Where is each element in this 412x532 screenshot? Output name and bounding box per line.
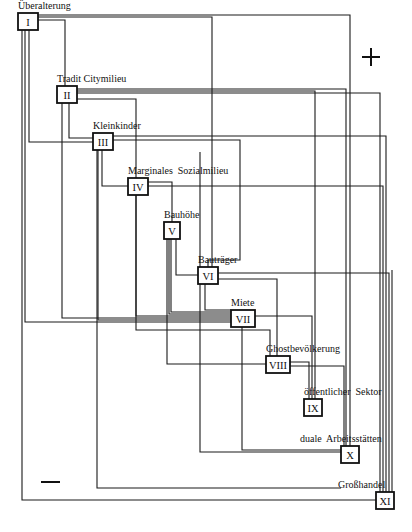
plus-sign-icon bbox=[362, 48, 380, 66]
node-id: II bbox=[64, 90, 71, 101]
node-label: Tradit Citymilieu bbox=[57, 73, 126, 84]
node-label: Großhandel bbox=[338, 479, 385, 490]
node-id: VIII bbox=[269, 360, 288, 371]
node-layer: ÜberalterungITradit CitymilieuIIKleinkin… bbox=[18, 0, 394, 509]
node-label: Überalterung bbox=[18, 0, 71, 11]
node-id: V bbox=[168, 226, 176, 237]
node-ix: öffentlicher SektorIX bbox=[304, 386, 382, 416]
node-label: Bauträger bbox=[198, 254, 238, 265]
node-label: Bauhöhe bbox=[164, 209, 200, 220]
influence-network-diagram: ÜberalterungITradit CitymilieuIIKleinkin… bbox=[0, 0, 412, 532]
node-x: duale ArbeitsstättenX bbox=[300, 433, 382, 463]
edge-ii-to-iii bbox=[69, 103, 93, 138]
node-label: Ghostbevölkerung bbox=[266, 343, 340, 354]
edge-ii-to-vii bbox=[62, 103, 231, 318]
node-label: Marginales Sozialmilieu bbox=[128, 165, 228, 176]
node-v: BauhöheV bbox=[164, 209, 200, 239]
node-id: VI bbox=[202, 271, 214, 282]
node-label: Kleinkinder bbox=[93, 120, 141, 131]
node-id: X bbox=[346, 450, 354, 461]
node-viii: GhostbevölkerungVIII bbox=[266, 343, 340, 373]
node-id: III bbox=[98, 137, 109, 148]
node-vii: MieteVII bbox=[231, 297, 255, 327]
edge-vi-to-vii bbox=[205, 284, 231, 310]
edge-iii-to-iv bbox=[102, 150, 128, 186]
node-label: Miete bbox=[231, 297, 255, 308]
node-label: duale Arbeitsstätten bbox=[300, 433, 382, 444]
node-label: öffentlicher Sektor bbox=[304, 386, 382, 397]
node-id: VII bbox=[236, 314, 251, 325]
node-id: I bbox=[26, 17, 30, 28]
node-iv: Marginales SozialmilieuIV bbox=[128, 165, 228, 195]
node-id: XI bbox=[379, 496, 391, 507]
node-iii: KleinkinderIII bbox=[93, 120, 141, 150]
node-id: IX bbox=[307, 403, 318, 414]
node-id: IV bbox=[132, 182, 143, 193]
edge-v-to-vi bbox=[176, 239, 198, 275]
